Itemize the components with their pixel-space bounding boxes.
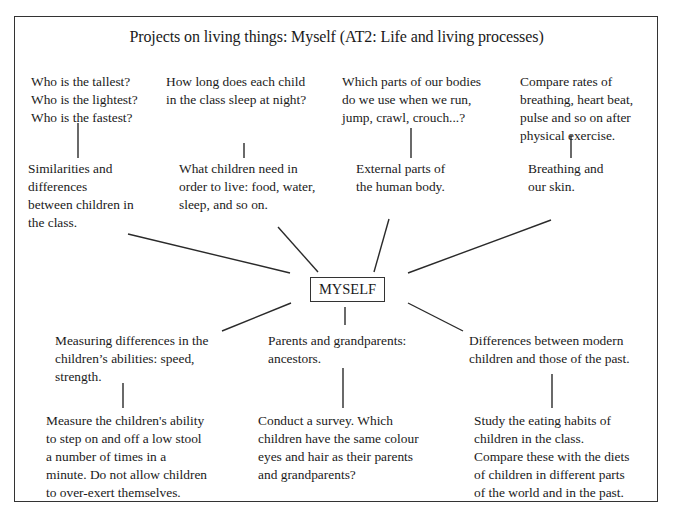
topic-external-body-parts: External parts of the human body. (356, 160, 445, 196)
connector-b1 (222, 303, 291, 331)
center-node-myself: MYSELF (310, 277, 385, 302)
question-breathing-rates: Compare rates of breathing, heart beat, … (520, 73, 633, 145)
question-tallest: Who is the tallest? Who is the lightest?… (31, 73, 138, 127)
connector-t3 (374, 219, 389, 272)
question-sleep: How long does each child in the class sl… (166, 73, 306, 109)
activity-survey: Conduct a survey. Which children have th… (258, 412, 419, 484)
connector-t4 (408, 220, 551, 273)
topic-parents-grandparents: Parents and grandparents: ancestors. (268, 332, 406, 368)
connector-t2 (278, 227, 318, 272)
activity-step-stool: Measure the children's ability to step o… (46, 412, 207, 502)
activity-eating-habits: Study the eating habits of children in t… (474, 412, 629, 502)
topic-measuring-abilities: Measuring differences in the children’s … (55, 332, 208, 386)
topic-what-children-need: What children need in order to live: foo… (179, 160, 315, 214)
question-body-parts: Which parts of our bodies do we use when… (342, 73, 481, 127)
topic-breathing-skin: Breathing and our skin. (528, 160, 604, 196)
topic-similarities-differences: Similarities and differences between chi… (28, 160, 134, 232)
connector-b3 (408, 303, 463, 331)
topic-modern-vs-past: Differences between modern children and … (469, 332, 630, 368)
connector-t1 (128, 234, 290, 273)
